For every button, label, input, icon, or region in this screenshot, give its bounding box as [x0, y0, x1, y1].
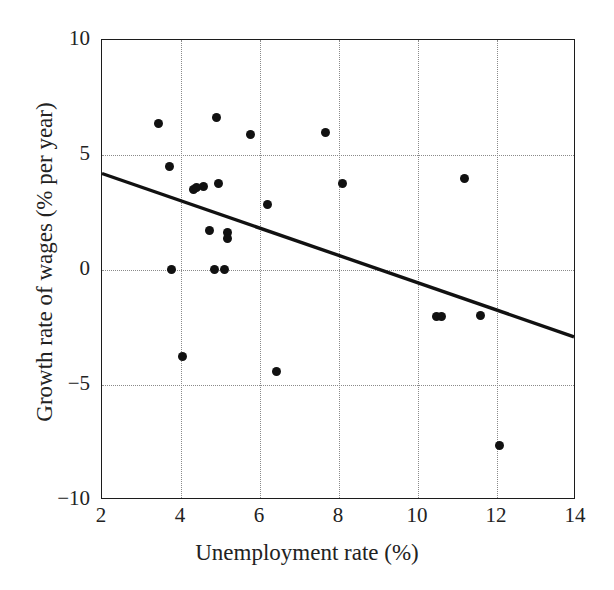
data-point: [437, 312, 446, 321]
x-tick-label: 6: [229, 505, 289, 526]
y-axis-title: Growth rate of wages (% per year): [32, 12, 58, 512]
data-point: [178, 352, 187, 361]
data-point: [165, 162, 174, 171]
trend-line: [102, 174, 574, 337]
x-axis-title: Unemployment rate (%): [0, 540, 614, 566]
data-point: [205, 226, 214, 235]
x-tick-label: 12: [466, 505, 526, 526]
data-point: [223, 234, 232, 243]
data-point: [338, 179, 347, 188]
data-point: [220, 265, 229, 274]
data-point: [212, 113, 221, 122]
data-point: [476, 311, 485, 320]
x-tick-label: 10: [387, 505, 447, 526]
data-point: [214, 179, 223, 188]
x-tick-label: 14: [545, 505, 605, 526]
data-point: [167, 265, 176, 274]
x-tick-label: 8: [308, 505, 368, 526]
scatter-chart-figure: 2468101214 −10−50510 Unemployment rate (…: [0, 0, 614, 590]
data-point: [154, 119, 163, 128]
plot-area: [101, 39, 575, 499]
x-tick-label: 4: [150, 505, 210, 526]
data-point: [210, 265, 219, 274]
